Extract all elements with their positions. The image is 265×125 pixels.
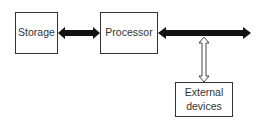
- bus-external-arrow-icon: [199, 37, 209, 82]
- connector-arrows: [0, 0, 265, 125]
- storage-processor-arrow-icon: [58, 27, 100, 39]
